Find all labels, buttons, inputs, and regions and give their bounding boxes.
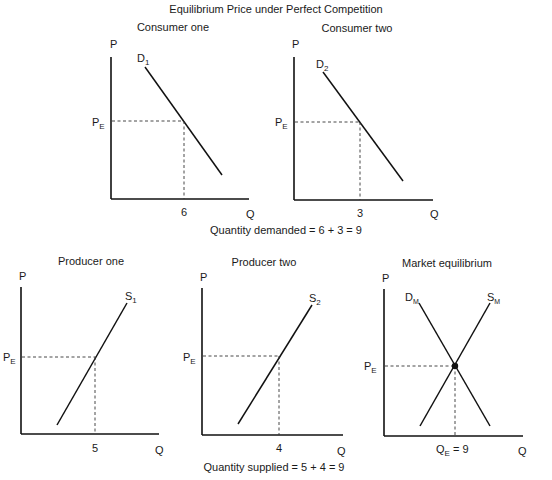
- panel-heading: Consumer two: [322, 22, 393, 34]
- curve-label: S1: [125, 290, 137, 305]
- y-axis-label: P: [110, 38, 117, 50]
- quantity-tick: 3: [357, 207, 363, 219]
- price-label: PE: [364, 360, 377, 375]
- quantity-tick: 6: [181, 206, 187, 218]
- panel-consumer-one: Consumer one P Q D1 PE 6: [92, 21, 255, 220]
- y-axis-label: P: [200, 271, 207, 283]
- equilibrium-quantity-label: QE = 9: [436, 443, 469, 458]
- curve-label: D2: [316, 58, 329, 73]
- x-axis-label: Q: [518, 445, 527, 457]
- curve-label: S2: [309, 292, 321, 307]
- demand-label: DM: [405, 291, 419, 305]
- equilibrium-diagram: Equilibrium Price under Perfect Competit…: [0, 0, 552, 480]
- panel-heading: Producer two: [232, 256, 297, 268]
- equilibrium-point: [452, 363, 458, 369]
- quantity-tick: 5: [92, 442, 98, 454]
- caption-quantity-demanded: Quantity demanded = 6 + 3 = 9: [210, 224, 362, 236]
- diagram-title: Equilibrium Price under Perfect Competit…: [169, 3, 382, 15]
- supply-curve-s2: [238, 305, 312, 424]
- panel-heading: Producer one: [58, 255, 124, 267]
- panel-producer-one: Producer one P Q S1 PE 5: [3, 255, 164, 456]
- panel-market-equilibrium: Market equilibrium P Q DM SM PE QE = 9: [364, 257, 527, 458]
- demand-curve-d2: [323, 72, 403, 181]
- y-axis-label: P: [19, 270, 26, 282]
- x-axis-label: Q: [430, 208, 439, 220]
- panel-consumer-two: Consumer two P Q D2 PE 3: [275, 22, 439, 220]
- price-label: PE: [183, 351, 196, 366]
- price-label: PE: [3, 351, 16, 366]
- quantity-tick: 4: [276, 442, 282, 454]
- caption-quantity-supplied: Quantity supplied = 5 + 4 = 9: [204, 461, 345, 473]
- x-axis-label: Q: [337, 445, 346, 457]
- panel-heading: Consumer one: [137, 21, 209, 33]
- price-label: PE: [275, 116, 288, 131]
- price-label: PE: [92, 116, 105, 131]
- curve-label: D1: [137, 52, 150, 67]
- y-axis-label: P: [382, 272, 389, 284]
- supply-curve-s1: [57, 303, 127, 425]
- supply-label: SM: [487, 291, 500, 305]
- x-axis-label: Q: [246, 208, 255, 220]
- panel-producer-two: Producer two P Q S2 PE 4: [183, 256, 346, 457]
- panel-heading: Market equilibrium: [402, 257, 492, 269]
- x-axis-label: Q: [155, 444, 164, 456]
- y-axis-label: P: [292, 38, 299, 50]
